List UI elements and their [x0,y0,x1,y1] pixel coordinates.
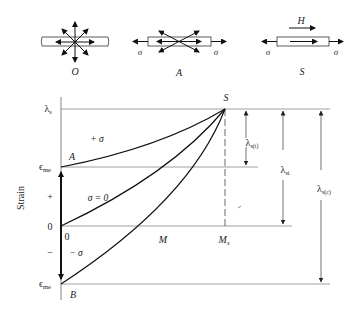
domain-state-s: H σ σ S [262,15,343,77]
tick-zero: 0 [48,221,53,232]
label-sigma-zero: σ = 0 [88,193,109,203]
magnetostriction-diagram: O σ σ A H σ σ S [0,0,360,314]
x-tick-ms: Ms [218,234,230,246]
label-lambda-si: λsi [281,164,290,176]
point-s-label: S [224,92,229,103]
strain-graph: λs ϵme + 0 − ϵme Strain 0 M Ms S A B + σ… [15,92,331,300]
state-label-a: A [175,67,183,78]
label-lambda-st: λs(t) [246,137,259,150]
stress-label-left: σ [138,47,143,57]
point-a-label: A [68,151,76,162]
label-plus-sigma: + σ [90,134,104,144]
tick-emc-lower: ϵme [39,278,51,290]
tick-plus: + [47,191,53,202]
domain-state-o: O [41,22,109,77]
state-label-s: S [300,66,305,77]
tick-emc-upper: ϵme [39,161,51,173]
x-tick-m: M [158,234,168,245]
y-axis-label: Strain [15,186,26,210]
label-lambda-sc: λs(c) [317,183,331,196]
stress-label-right: σ [214,47,219,57]
stress-label-right: σ [334,47,339,57]
aligned-domain-arrows-icon [133,31,226,52]
tick-minus: − [47,247,53,258]
stress-label-left: σ [266,47,271,57]
state-label-o: O [71,66,78,77]
point-b-label: B [70,289,76,300]
tensile-stress-curve [61,109,225,167]
field-label-h: H [296,15,305,26]
tick-lambda-s: λs [44,103,52,115]
label-minus-sigma: − σ [69,248,83,258]
zero-stress-curve [61,109,225,226]
x-tick-zero: 0 [65,231,70,242]
domain-state-a: σ σ A [133,31,226,78]
